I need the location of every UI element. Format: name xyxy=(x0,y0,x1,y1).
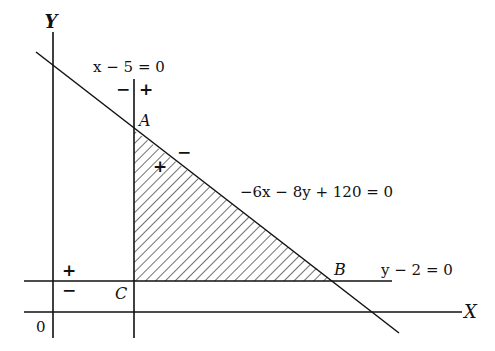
diagonal-outside-sign: − xyxy=(177,142,191,162)
vertical-line-equation: x − 5 = 0 xyxy=(93,58,165,76)
vertical-right-sign: + xyxy=(139,79,153,99)
diagonal-inside-sign: + xyxy=(153,156,167,176)
point-a-label: A xyxy=(137,111,151,130)
horizontal-below-sign: − xyxy=(62,280,76,300)
origin-label: 0 xyxy=(36,318,46,336)
point-c-label: C xyxy=(115,284,127,303)
point-b-label: B xyxy=(333,260,346,279)
vertical-left-sign: − xyxy=(116,79,130,99)
diagonal-line-equation: −6x − 8y + 120 = 0 xyxy=(240,183,393,201)
horizontal-line-equation: y − 2 = 0 xyxy=(380,261,453,279)
x-axis-label: X xyxy=(462,301,478,322)
y-axis-label: Y xyxy=(45,11,60,32)
linear-inequality-diagram: Y X 0 x − 5 = 0 − + −6x − 8y + 120 = 0 −… xyxy=(0,0,495,351)
horizontal-above-sign: + xyxy=(62,260,76,280)
